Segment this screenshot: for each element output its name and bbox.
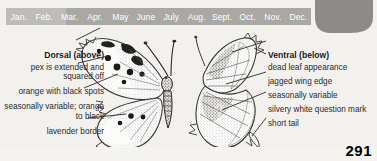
dorsal-callout-lavender-border: lavender border [0, 127, 104, 137]
page-number: 291 [345, 142, 372, 159]
month-july: July [159, 12, 184, 22]
month-may: May [108, 12, 133, 22]
dorsal-callout-apex: pex is extended and squared off [0, 63, 104, 82]
field-guide-page: Jan. Feb. Mar. Apr. May June July Aug. S… [0, 0, 377, 161]
month-jan: Jan. [6, 12, 31, 22]
month-sept: Sept. [209, 12, 234, 22]
month-june: June [133, 12, 158, 22]
month-oct: Oct. [235, 12, 260, 22]
ventral-callout-dead-leaf: dead leaf appearance [268, 63, 377, 73]
dorsal-callout-orange-black-spots: orange with black spots [0, 87, 104, 97]
month-feb: Feb. [31, 12, 56, 22]
month-dec: Dec. [286, 12, 311, 22]
flight-period-bar: Jan. Feb. Mar. Apr. May June July Aug. S… [6, 8, 311, 25]
butterfly-ventral-illustration [189, 33, 264, 158]
ventral-callout-jagged-wing-edge: jagged wing edge [268, 77, 377, 87]
dorsal-callout-seasonally-variable: seasonally variable; orange to black [0, 102, 104, 121]
ventral-callout-seasonally-variable: seasonally variable [268, 91, 377, 101]
month-aug: Aug. [184, 12, 209, 22]
ventral-callout-short-tail: short tail [268, 119, 377, 129]
month-nov: Nov. [260, 12, 285, 22]
month-mar: Mar. [57, 12, 82, 22]
month-apr: Apr. [82, 12, 107, 22]
page-bottom-edge [0, 147, 377, 161]
dorsal-callout-column: Dorsal (above) pex is extended and squar… [0, 50, 104, 142]
ventral-callout-column: Ventral (below) dead leaf appearance jag… [268, 50, 377, 133]
ventral-heading: Ventral (below) [268, 50, 377, 60]
dorsal-heading: Dorsal (above) [0, 50, 104, 60]
ventral-callout-question-mark: silvery white question mark [268, 105, 377, 115]
range-map [313, 0, 375, 33]
